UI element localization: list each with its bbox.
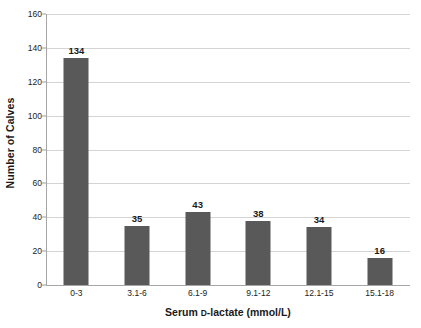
y-axis-tick-label: 120	[28, 78, 42, 87]
x-axis-tick-label: 9.1-12	[246, 289, 270, 298]
x-axis-tick-label: 0-3	[70, 289, 82, 298]
x-axis-tick-labels: 0-33.1-66.1-99.1-1212.1-1515.1-18	[46, 289, 410, 305]
x-axis-title: Serum D-lactate (mmol/L)	[46, 307, 410, 319]
bar-chart-figure: Number of Calves 020406080100120140160 1…	[0, 0, 421, 328]
y-axis-tick-labels: 020406080100120140160	[16, 14, 42, 285]
x-axis-tick-label: 3.1-6	[127, 289, 146, 298]
x-axis-tick-label: 15.1-18	[365, 289, 394, 298]
bars-layer: 1343543383416	[46, 14, 410, 285]
x-axis-tick-label: 12.1-15	[305, 289, 334, 298]
x-axis-title-prefix: Serum	[165, 306, 201, 318]
x-axis-tick-label: 6.1-9	[188, 289, 207, 298]
bar	[185, 212, 210, 285]
bar-value-label: 134	[68, 46, 84, 56]
y-axis-tick-label: 40	[33, 213, 42, 222]
y-axis-tick-label: 80	[33, 145, 42, 154]
bar	[246, 221, 271, 285]
y-axis-tick-label: 20	[33, 247, 42, 256]
x-axis-title-suffix: -lactate (mmol/L)	[207, 306, 291, 318]
y-axis-tick-label: 140	[28, 44, 42, 53]
y-axis-tick-label: 60	[33, 179, 42, 188]
bar	[307, 227, 332, 285]
bar-value-label: 38	[253, 208, 264, 218]
bar-value-label: 35	[132, 213, 143, 223]
bar	[367, 258, 392, 285]
bar	[125, 226, 150, 285]
plot-area: 1343543383416	[46, 14, 410, 285]
y-axis-title-text: Number of Calves	[4, 97, 16, 188]
bar-value-label: 34	[314, 215, 325, 225]
axis-baseline	[46, 285, 410, 286]
y-axis-tick-label: 100	[28, 111, 42, 120]
y-axis-tick-label: 160	[28, 10, 42, 19]
bar-value-label: 43	[192, 200, 203, 210]
bar-value-label: 16	[374, 245, 385, 255]
bar	[64, 58, 89, 285]
